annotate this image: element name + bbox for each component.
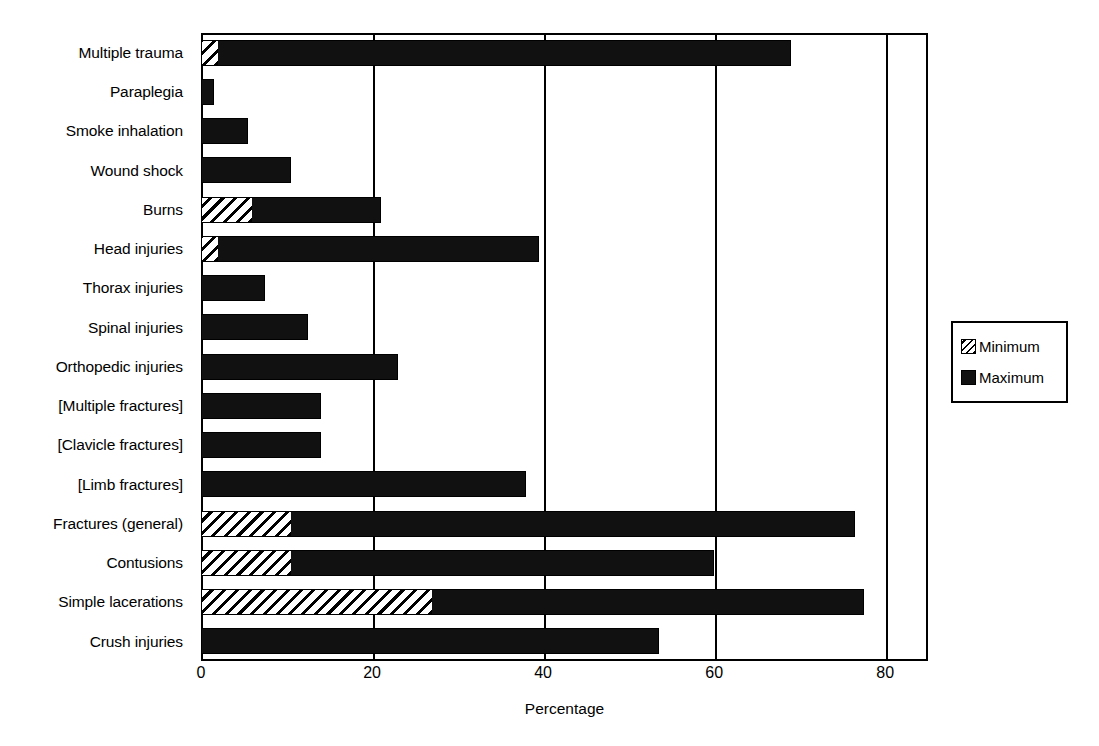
bar-row [201,151,928,190]
x-tick-label: 40 [534,665,552,681]
bar-segment-maximum[interactable] [218,236,539,262]
bar-row [201,504,928,543]
bar-group[interactable] [201,79,214,105]
bar-row [201,229,928,268]
bar-segment-maximum[interactable] [252,197,380,223]
bar-group[interactable] [201,40,791,66]
x-axis-title: Percentage [201,700,928,718]
y-axis-label: Thorax injuries [0,269,192,308]
y-axis-label: [Limb fractures] [0,465,192,504]
bar-row [201,190,928,229]
bar-group[interactable] [201,628,659,654]
bar-group[interactable] [201,157,291,183]
bar-segment-maximum[interactable] [201,79,214,105]
x-tick-label: 80 [876,665,894,681]
bar-segment-minimum[interactable] [201,589,432,615]
bar-group[interactable] [201,511,855,537]
bar-group[interactable] [201,471,526,497]
y-axis-label: Spinal injuries [0,308,192,347]
y-axis-category-labels: Multiple trauma Paraplegia Smoke inhalat… [0,33,192,661]
bar-row [201,622,928,661]
bar-segment-maximum[interactable] [201,157,291,183]
bar-row [201,426,928,465]
y-axis-label: Fractures (general) [0,504,192,543]
bar-segment-minimum[interactable] [201,236,218,262]
bar-group[interactable] [201,236,539,262]
bar-row [201,583,928,622]
bar-row [201,33,928,72]
y-axis-label: Paraplegia [0,72,192,111]
x-tick-label: 20 [363,665,381,681]
bar-row [201,269,928,308]
y-axis-label: Burns [0,190,192,229]
bar-series-container [201,33,928,661]
y-axis-label: Orthopedic injuries [0,347,192,386]
bar-group[interactable] [201,393,321,419]
bar-segment-maximum[interactable] [201,118,248,144]
y-axis-label: [Multiple fractures] [0,386,192,425]
bar-segment-maximum[interactable] [291,550,714,576]
bar-row [201,347,928,386]
bar-segment-maximum[interactable] [201,471,526,497]
bar-segment-maximum[interactable] [432,589,864,615]
y-axis-label: Multiple trauma [0,33,192,72]
bar-segment-minimum[interactable] [201,197,252,223]
bar-segment-maximum[interactable] [218,40,791,66]
bar-segment-maximum[interactable] [201,314,308,340]
y-axis-label: Crush injuries [0,622,192,661]
legend-label: Minimum [979,339,1040,354]
y-axis-label: Smoke inhalation [0,112,192,151]
bar-row [201,72,928,111]
bar-group[interactable] [201,589,864,615]
bar-group[interactable] [201,197,381,223]
y-axis-label: Simple lacerations [0,583,192,622]
bar-segment-maximum[interactable] [201,275,265,301]
bar-group[interactable] [201,354,398,380]
legend-item-minimum: Minimum [961,339,1066,354]
y-axis-label: Head injuries [0,229,192,268]
solid-swatch-icon [961,370,976,385]
hatched-swatch-icon [961,339,976,354]
y-axis-label: Contusions [0,543,192,582]
bar-group[interactable] [201,432,321,458]
bar-group[interactable] [201,118,248,144]
x-axis-tick-labels: 020406080 [201,665,928,691]
bar-segment-maximum[interactable] [201,628,659,654]
legend-label: Maximum [979,370,1044,385]
chart-legend: Minimum Maximum [951,321,1068,403]
x-tick-label: 0 [197,665,206,681]
bar-segment-maximum[interactable] [201,432,321,458]
bar-group[interactable] [201,314,308,340]
bar-group[interactable] [201,550,714,576]
bar-group[interactable] [201,275,265,301]
bar-segment-minimum[interactable] [201,550,291,576]
bar-row [201,386,928,425]
bar-segment-maximum[interactable] [201,354,398,380]
y-axis-label: Wound shock [0,151,192,190]
x-tick-label: 60 [705,665,723,681]
legend-item-maximum: Maximum [961,370,1066,385]
bar-row [201,543,928,582]
y-axis-label: [Clavicle fractures] [0,426,192,465]
bar-row [201,308,928,347]
bar-segment-maximum[interactable] [201,393,321,419]
bar-row [201,112,928,151]
bar-segment-minimum[interactable] [201,40,218,66]
bar-row [201,465,928,504]
bar-chart: Multiple trauma Paraplegia Smoke inhalat… [0,0,1099,746]
bar-segment-minimum[interactable] [201,511,291,537]
bar-segment-maximum[interactable] [291,511,855,537]
